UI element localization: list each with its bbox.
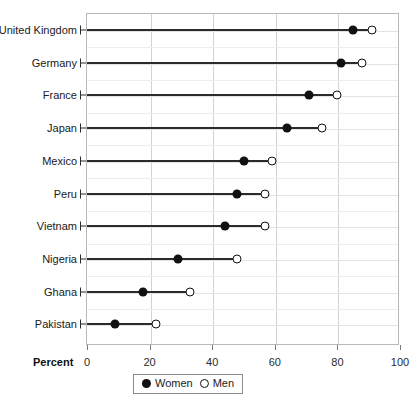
women-marker-mexico <box>239 156 248 165</box>
category-tick-cap <box>80 222 81 231</box>
horizontal-gridline <box>87 145 398 146</box>
category-label-mexico: Mexico <box>42 155 77 166</box>
x-axis-tick <box>400 345 401 350</box>
legend-item-men: Men <box>200 378 234 389</box>
x-axis-tick-label: 100 <box>391 357 409 368</box>
category-label-france: France <box>43 90 77 101</box>
horizontal-gridline-row <box>87 260 398 261</box>
chart-legend: WomenMen <box>133 374 243 394</box>
men-marker-mexico <box>267 156 276 165</box>
x-axis-tick-label: 0 <box>84 357 90 368</box>
category-tick <box>81 258 86 259</box>
horizontal-gridline-row <box>87 129 398 130</box>
category-tick <box>81 193 86 194</box>
women-marker-united-kingdom <box>349 26 358 35</box>
category-tick <box>81 62 86 63</box>
horizontal-gridline-row <box>87 227 398 228</box>
category-label-ghana: Ghana <box>44 286 77 297</box>
horizontal-gridline <box>87 309 398 310</box>
men-marker-germany <box>358 58 367 67</box>
horizontal-gridline <box>87 80 398 81</box>
horizontal-gridline-row <box>87 325 398 326</box>
connector-line-vietnam <box>87 225 265 227</box>
horizontal-gridline <box>87 244 398 245</box>
men-marker-japan <box>317 124 326 133</box>
category-label-united-kingdom: United Kingdom <box>0 25 77 36</box>
legend-item-women: Women <box>142 378 193 389</box>
men-marker-vietnam <box>261 222 270 231</box>
women-marker-nigeria <box>173 254 182 263</box>
category-tick-cap <box>80 320 81 329</box>
women-marker-france <box>305 91 314 100</box>
category-tick-cap <box>80 26 81 35</box>
category-label-peru: Peru <box>54 188 77 199</box>
legend-label: Men <box>213 378 234 389</box>
category-tick-cap <box>80 156 81 165</box>
category-label-japan: Japan <box>47 123 77 134</box>
men-marker-united-kingdom <box>367 26 376 35</box>
legend-label: Women <box>155 378 193 389</box>
x-axis-tick-label: 60 <box>269 357 281 368</box>
connector-line-united-kingdom <box>87 29 372 31</box>
women-marker-peru <box>233 189 242 198</box>
men-marker-ghana <box>186 287 195 296</box>
category-tick <box>81 160 86 161</box>
category-tick <box>81 128 86 129</box>
category-label-pakistan: Pakistan <box>35 319 77 330</box>
women-marker-pakistan <box>111 320 120 329</box>
women-marker-japan <box>283 124 292 133</box>
x-axis-tick-label: 40 <box>206 357 218 368</box>
men-marker-france <box>333 91 342 100</box>
category-label-germany: Germany <box>32 57 77 68</box>
horizontal-gridline-row <box>87 293 398 294</box>
category-tick <box>81 324 86 325</box>
category-tick-cap <box>80 287 81 296</box>
filled-circle-icon <box>142 379 151 388</box>
horizontal-gridline <box>87 47 398 48</box>
connector-line-nigeria <box>87 258 237 260</box>
category-tick-cap <box>80 124 81 133</box>
men-marker-pakistan <box>151 320 160 329</box>
category-tick-cap <box>80 189 81 198</box>
x-axis-tick <box>275 345 276 350</box>
category-tick-cap <box>80 254 81 263</box>
men-marker-nigeria <box>233 254 242 263</box>
x-axis-title: Percent <box>33 357 73 368</box>
category-tick-cap <box>80 58 81 67</box>
dumbbell-chart: United KingdomGermanyFranceJapanMexicoPe… <box>0 0 419 403</box>
horizontal-gridline <box>87 211 398 212</box>
x-axis-tick <box>337 345 338 350</box>
horizontal-gridline <box>87 113 398 114</box>
category-tick <box>81 226 86 227</box>
x-axis-tick <box>212 345 213 350</box>
category-tick-cap <box>80 91 81 100</box>
category-tick <box>81 291 86 292</box>
connector-line-germany <box>87 62 362 64</box>
category-label-nigeria: Nigeria <box>42 253 77 264</box>
connector-line-pakistan <box>87 323 156 325</box>
horizontal-gridline <box>87 178 398 179</box>
x-axis-tick-label: 20 <box>143 357 155 368</box>
x-axis-tick <box>87 345 88 350</box>
open-circle-icon <box>200 379 209 388</box>
horizontal-gridline-row <box>87 96 398 97</box>
horizontal-gridline <box>87 276 398 277</box>
horizontal-gridline-row <box>87 64 398 65</box>
x-axis-tick <box>150 345 151 350</box>
category-tick <box>81 30 86 31</box>
women-marker-ghana <box>139 287 148 296</box>
category-tick <box>81 95 86 96</box>
category-label-vietnam: Vietnam <box>37 221 77 232</box>
connector-line-france <box>87 94 337 96</box>
men-marker-peru <box>261 189 270 198</box>
horizontal-gridline-row <box>87 195 398 196</box>
x-axis-tick-label: 80 <box>331 357 343 368</box>
women-marker-germany <box>336 58 345 67</box>
women-marker-vietnam <box>220 222 229 231</box>
